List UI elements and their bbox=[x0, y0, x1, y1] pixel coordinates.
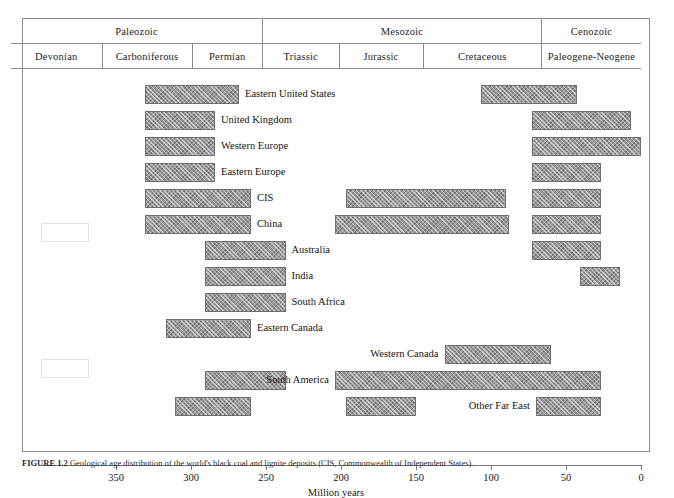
period-label: Triassic bbox=[284, 51, 318, 62]
coal-age-bar bbox=[145, 85, 240, 104]
x-axis-title: Million years bbox=[23, 487, 649, 498]
region-label: India bbox=[292, 268, 314, 284]
figure-caption: FIGURE 1.2 Geological age distribution o… bbox=[22, 458, 662, 472]
coal-age-bar bbox=[145, 189, 252, 208]
x-tick-label: 200 bbox=[333, 472, 349, 483]
bar-row: Western Canada bbox=[23, 343, 649, 365]
coal-age-bar bbox=[346, 189, 507, 208]
bar-row: China bbox=[23, 213, 649, 235]
coal-age-bar bbox=[532, 241, 601, 260]
region-label: Australia bbox=[292, 242, 331, 258]
coal-age-bar bbox=[580, 267, 621, 286]
period-cell: Paleogene-Neogene bbox=[542, 44, 641, 69]
era-label: Mesozoic bbox=[381, 26, 423, 37]
period-cell: Permian bbox=[193, 44, 264, 69]
bar-row: Eastern Canada bbox=[23, 317, 649, 339]
period-label: Carboniferous bbox=[116, 51, 179, 62]
bar-row: South Africa bbox=[23, 291, 649, 313]
coal-age-bar bbox=[145, 137, 216, 156]
x-tick-label: 150 bbox=[408, 472, 424, 483]
caption-label: FIGURE 1.2 bbox=[22, 458, 68, 468]
period-cell: Carboniferous bbox=[103, 44, 193, 69]
region-label: Eastern United States bbox=[245, 86, 335, 102]
x-tick-label: 250 bbox=[258, 472, 274, 483]
period-label: Cretaceous bbox=[458, 51, 507, 62]
x-tick-label: 0 bbox=[638, 472, 643, 483]
period-cell: Cretaceous bbox=[424, 44, 543, 69]
period-cell: Devonian bbox=[11, 44, 103, 69]
bar-row: United Kingdom bbox=[23, 109, 649, 131]
region-label: South Africa bbox=[292, 294, 345, 310]
chart-frame: PaleozoicMesozoicCenozoic DevonianCarbon… bbox=[22, 18, 650, 452]
region-label: Eastern Europe bbox=[221, 164, 285, 180]
period-cell: Triassic bbox=[263, 44, 340, 69]
bar-row: South America bbox=[23, 369, 649, 391]
coal-age-bar bbox=[536, 397, 601, 416]
coal-age-bar bbox=[532, 215, 601, 234]
period-label: Paleogene-Neogene bbox=[548, 51, 635, 62]
bar-row: Western Europe bbox=[23, 135, 649, 157]
bar-row: Other Far East bbox=[23, 395, 649, 417]
period-cell: Jurassic bbox=[340, 44, 424, 69]
period-label: Permian bbox=[209, 51, 245, 62]
coal-age-bar bbox=[335, 371, 601, 390]
coal-age-bar bbox=[532, 111, 631, 130]
bar-row: CIS bbox=[23, 187, 649, 209]
coal-age-bar bbox=[145, 163, 216, 182]
era-label: Cenozoic bbox=[571, 26, 612, 37]
region-label: China bbox=[257, 216, 282, 232]
coal-age-bar bbox=[145, 111, 216, 130]
era-label: Paleozoic bbox=[115, 26, 158, 37]
period-label: Jurassic bbox=[364, 51, 399, 62]
coal-age-bar bbox=[205, 293, 286, 312]
coal-age-bar bbox=[145, 215, 252, 234]
region-label: Other Far East bbox=[23, 398, 530, 414]
x-tick-label: 100 bbox=[483, 472, 499, 483]
x-tick-label: 300 bbox=[183, 472, 199, 483]
bar-row: India bbox=[23, 265, 649, 287]
bar-row: Eastern Europe bbox=[23, 161, 649, 183]
region-label: CIS bbox=[257, 190, 273, 206]
coal-age-bar bbox=[445, 345, 552, 364]
coal-age-bar bbox=[205, 241, 286, 260]
coal-age-bar bbox=[205, 267, 286, 286]
coal-age-bar bbox=[532, 163, 601, 182]
period-label: Devonian bbox=[35, 51, 77, 62]
region-label: Western Canada bbox=[23, 346, 439, 362]
coal-age-bar bbox=[532, 137, 642, 156]
coal-age-bar bbox=[532, 189, 601, 208]
coal-age-bar bbox=[335, 215, 509, 234]
coal-age-bar bbox=[481, 85, 577, 104]
coal-age-bar bbox=[166, 319, 252, 338]
x-tick-label: 350 bbox=[108, 472, 124, 483]
era-cell: Mesozoic bbox=[263, 19, 542, 44]
plot-area: Eastern United StatesUnited KingdomWeste… bbox=[23, 69, 649, 451]
era-cell: Cenozoic bbox=[542, 19, 641, 44]
x-tick-label: 50 bbox=[561, 472, 572, 483]
bar-row: Eastern United States bbox=[23, 83, 649, 105]
caption-text: Geological age distribution of the world… bbox=[70, 458, 474, 468]
bar-row: Australia bbox=[23, 239, 649, 261]
region-label: Western Europe bbox=[221, 138, 288, 154]
region-label: Eastern Canada bbox=[257, 320, 323, 336]
era-cell: Paleozoic bbox=[11, 19, 263, 44]
region-label: United Kingdom bbox=[221, 112, 292, 128]
region-label: South America bbox=[23, 372, 329, 388]
